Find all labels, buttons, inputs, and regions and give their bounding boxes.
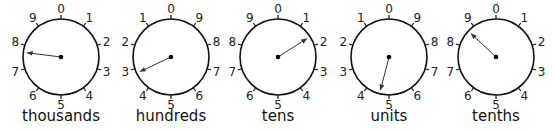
dial-number: 1 bbox=[302, 11, 310, 25]
tick-mark bbox=[456, 69, 460, 70]
dial-number: 7 bbox=[12, 65, 20, 79]
tick-mark bbox=[21, 44, 25, 45]
tick-mark bbox=[471, 88, 473, 91]
tick-mark bbox=[36, 88, 38, 91]
dial-number: 3 bbox=[122, 65, 130, 79]
dial-number: 2 bbox=[122, 35, 130, 49]
dial-number: 6 bbox=[29, 89, 37, 103]
tick-mark bbox=[238, 44, 242, 45]
dial-number: 6 bbox=[464, 89, 472, 103]
tick-mark bbox=[21, 69, 25, 70]
dial-number: 3 bbox=[340, 65, 348, 79]
dial-pointer bbox=[27, 53, 61, 57]
dial-center-dot bbox=[387, 55, 392, 60]
dial-number: 2 bbox=[340, 35, 348, 49]
tick-mark bbox=[131, 44, 135, 45]
dial-number: 4 bbox=[85, 89, 93, 103]
tick-mark bbox=[146, 23, 148, 26]
tick-mark bbox=[532, 44, 536, 45]
tick-mark bbox=[97, 69, 101, 70]
dial-number: 9 bbox=[464, 11, 472, 25]
dial-label: tens bbox=[262, 107, 295, 125]
dial-pointer bbox=[278, 39, 307, 57]
dial-center-dot bbox=[169, 55, 174, 60]
dial-center-dot bbox=[59, 55, 64, 60]
dial-number: 2 bbox=[103, 35, 111, 49]
dial-number: 0 bbox=[274, 2, 282, 16]
tick-mark bbox=[146, 88, 148, 91]
dial-number: 7 bbox=[447, 65, 455, 79]
dial-number: 3 bbox=[538, 65, 546, 79]
dial-number: 7 bbox=[229, 65, 237, 79]
dial-number: 8 bbox=[431, 35, 439, 49]
tick-mark bbox=[131, 69, 135, 70]
dial-number: 4 bbox=[357, 89, 365, 103]
tick-mark bbox=[97, 44, 101, 45]
tick-mark bbox=[364, 23, 366, 26]
tick-mark bbox=[314, 44, 318, 45]
dial-number: 1 bbox=[520, 11, 528, 25]
tick-mark bbox=[253, 88, 255, 91]
dial-number: 3 bbox=[103, 65, 111, 79]
dial-number: 0 bbox=[492, 2, 500, 16]
dial-thousands: 0123456789thousands bbox=[12, 2, 111, 125]
dial-number: 1 bbox=[85, 11, 93, 25]
dial-number: 1 bbox=[357, 11, 365, 25]
dial-number: 8 bbox=[213, 35, 221, 49]
dial-number: 9 bbox=[413, 11, 421, 25]
dial-number: 3 bbox=[320, 65, 328, 79]
tick-mark bbox=[364, 88, 366, 91]
dial-hundreds: 0123456789hundreds bbox=[122, 2, 221, 125]
tick-mark bbox=[36, 23, 38, 26]
dial-label: tenths bbox=[472, 107, 520, 125]
dial-number: 6 bbox=[413, 89, 421, 103]
tick-mark bbox=[314, 69, 318, 70]
dial-number: 9 bbox=[246, 11, 254, 25]
dial-number: 4 bbox=[520, 89, 528, 103]
dial-number: 7 bbox=[213, 65, 221, 79]
dial-number: 8 bbox=[447, 35, 455, 49]
dial-center-dot bbox=[276, 55, 281, 60]
tick-mark bbox=[253, 23, 255, 26]
tick-mark bbox=[238, 69, 242, 70]
tick-mark bbox=[207, 69, 211, 70]
dial-number: 7 bbox=[431, 65, 439, 79]
dial-number: 8 bbox=[12, 35, 20, 49]
dial-label: thousands bbox=[22, 107, 100, 125]
dial-number: 4 bbox=[139, 89, 147, 103]
tick-mark bbox=[532, 69, 536, 70]
dial-number: 2 bbox=[538, 35, 546, 49]
dial-number: 1 bbox=[139, 11, 147, 25]
dial-number: 9 bbox=[195, 11, 203, 25]
dial-number: 0 bbox=[57, 2, 65, 16]
tick-mark bbox=[425, 69, 429, 70]
dial-units: 0123456789units bbox=[340, 2, 439, 125]
dial-label: hundreds bbox=[136, 107, 207, 125]
dial-number: 4 bbox=[302, 89, 310, 103]
tick-mark bbox=[425, 44, 429, 45]
tick-mark bbox=[456, 44, 460, 45]
tick-mark bbox=[349, 69, 353, 70]
dial-center-dot bbox=[494, 55, 499, 60]
dial-pointer bbox=[140, 57, 171, 71]
tick-mark bbox=[349, 44, 353, 45]
dial-number: 6 bbox=[195, 89, 203, 103]
dial-label: units bbox=[371, 107, 408, 125]
dial-pointer bbox=[381, 57, 389, 90]
dial-number: 8 bbox=[229, 35, 237, 49]
dial-tens: 0123456789tens bbox=[229, 2, 328, 125]
dial-number: 9 bbox=[29, 11, 37, 25]
tick-mark bbox=[471, 23, 473, 26]
dials-diagram: 0123456789thousands0123456789hundreds012… bbox=[0, 0, 553, 131]
tick-mark bbox=[207, 44, 211, 45]
dial-number: 6 bbox=[246, 89, 254, 103]
dial-number: 0 bbox=[385, 2, 393, 16]
dial-number: 2 bbox=[320, 35, 328, 49]
dial-number: 0 bbox=[167, 2, 175, 16]
dial-pointer bbox=[471, 34, 496, 57]
dial-tenths: 0123456789tenths bbox=[447, 2, 546, 125]
